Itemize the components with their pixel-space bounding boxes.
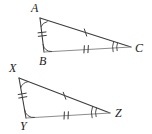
geometry-figure: A B C X Y Z [0,0,152,134]
angle-a-arc [41,22,48,27]
vertex-label-a: A [31,2,38,14]
angle-b-arc [43,44,52,51]
side-bc [44,47,131,52]
angle-x-arc [21,82,29,88]
vertex-label-z: Z [115,107,122,119]
vertex-label-x: X [9,62,16,74]
vertex-label-y: Y [20,120,27,132]
triangle-abc [38,18,131,53]
triangle-xyz [18,78,110,120]
vertex-label-c: C [135,42,143,54]
vertex-label-b: B [39,55,46,67]
geometry-canvas [0,0,152,134]
